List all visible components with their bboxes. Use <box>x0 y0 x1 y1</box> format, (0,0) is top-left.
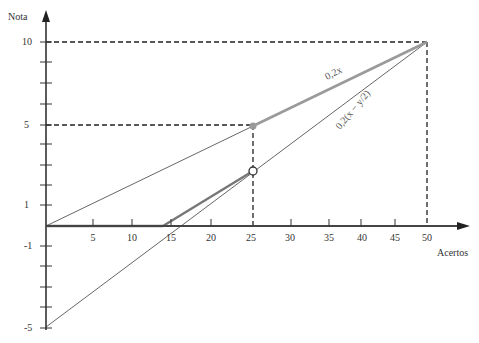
lower-line-label: 0,2(x − y/2) <box>333 88 373 132</box>
chart: Nota 10 5 1 -1 -5 5 10 15 20 25 30 35 40… <box>0 0 479 343</box>
x-label: 20 <box>206 232 216 243</box>
x-label: 35 <box>324 232 334 243</box>
x-label: 10 <box>127 232 137 243</box>
point-25-5 <box>250 123 257 130</box>
y-axis-label: Nota <box>8 11 28 22</box>
y-label-neg1: -1 <box>24 240 32 251</box>
x-label: 25 <box>246 232 256 243</box>
x-label: 15 <box>166 232 176 243</box>
y-label-1: 1 <box>24 199 29 210</box>
y-label-5: 5 <box>24 119 29 130</box>
y-axis-arrow-icon <box>42 10 50 22</box>
point-25-2.5-open <box>249 167 257 175</box>
x-label: 5 <box>91 232 96 243</box>
line-lower-bold <box>163 171 253 226</box>
x-axis-arrow-icon <box>457 222 470 230</box>
x-label: 40 <box>357 232 367 243</box>
upper-line-label: 0,2x <box>323 64 344 82</box>
x-labels: 5 10 15 20 25 30 35 40 45 50 <box>91 232 433 243</box>
line-upper-bold <box>253 42 427 126</box>
x-label: 45 <box>390 232 400 243</box>
line-lower-thin <box>46 42 427 327</box>
x-label: 50 <box>422 232 432 243</box>
y-label-neg5: -5 <box>24 322 32 333</box>
x-label: 30 <box>285 232 295 243</box>
x-axis-label: Acertos <box>437 247 468 258</box>
y-label-10: 10 <box>22 36 32 47</box>
